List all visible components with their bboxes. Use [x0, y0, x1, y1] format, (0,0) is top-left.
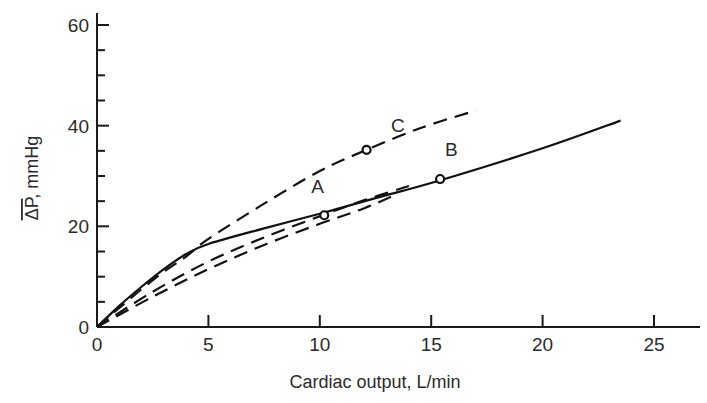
- x-tick-label: 15: [421, 334, 442, 355]
- x-tick-label: 0: [92, 334, 103, 355]
- marker-b: [436, 175, 444, 183]
- svg-text:ΔP, mmHg: ΔP, mmHg: [22, 136, 42, 221]
- y-axis-label: ΔP, mmHg: [22, 136, 42, 221]
- x-tick-label: 20: [532, 334, 553, 355]
- axes: 05101520250204060: [68, 13, 700, 355]
- pressure-flow-chart: 05101520250204060 ABC Cardiac output, L/…: [0, 0, 707, 403]
- marker-c: [363, 146, 371, 154]
- series-lines: [97, 111, 621, 327]
- series-line-1: [97, 111, 476, 327]
- x-tick-label: 25: [643, 334, 664, 355]
- marker-label-a: A: [311, 176, 324, 197]
- marker-label-b: B: [445, 139, 458, 160]
- y-axis-label-unit: , mmHg: [22, 136, 42, 199]
- y-axis-label-symbol: ΔP: [22, 196, 42, 220]
- series-line-2: [97, 186, 409, 327]
- y-tick-label: 60: [68, 15, 89, 36]
- x-axis-label: Cardiac output, L/min: [289, 372, 460, 392]
- marker-a: [320, 211, 328, 219]
- marker-label-c: C: [391, 115, 405, 136]
- x-tick-label: 10: [309, 334, 330, 355]
- y-tick-label: 0: [78, 317, 89, 338]
- y-tick-label: 40: [68, 116, 89, 137]
- y-tick-label: 20: [68, 216, 89, 237]
- data-point-markers: ABC: [311, 115, 457, 220]
- series-line-0: [97, 121, 621, 327]
- x-tick-label: 5: [203, 334, 214, 355]
